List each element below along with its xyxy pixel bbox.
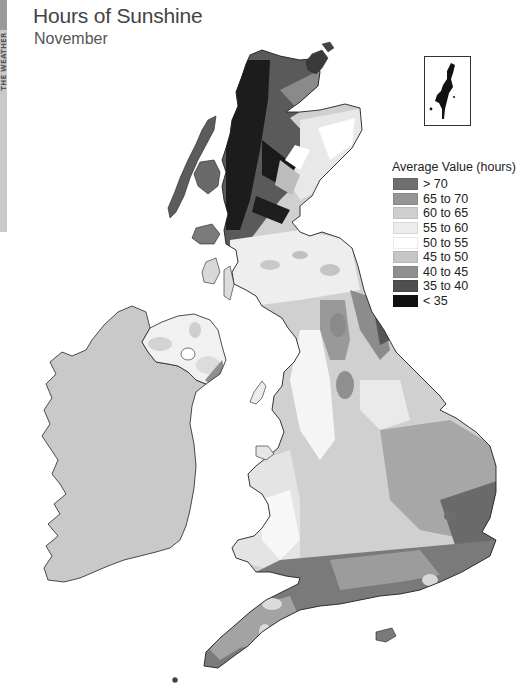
legend-title: Average Value (hours) [392,160,516,174]
shetland-islands [435,63,455,119]
legend-swatch [393,266,418,278]
legend-item: 60 to 65 [393,206,516,221]
legend-item: 50 to 55 [393,235,516,250]
orkney-small-islands [322,42,334,52]
legend-label: 45 to 50 [423,250,468,264]
isle-of-wight [376,628,396,642]
orkney-islands [306,50,328,74]
legend-label: 35 to 40 [423,279,468,293]
legend-label: < 35 [423,294,448,308]
legend-item: 40 to 45 [393,265,516,280]
isle-of-skye [194,160,220,194]
legend-item: < 35 [393,294,516,309]
legend-swatch [393,251,418,263]
legend-label: 55 to 60 [423,221,468,235]
great-britain-shading [200,40,510,680]
legend-label: 65 to 70 [423,192,468,206]
legend-label: 40 to 45 [423,265,468,279]
legend-items: > 7065 to 7060 to 6555 to 6050 to 5545 t… [393,177,516,308]
legend-item: > 70 [393,177,516,192]
islay-jura [202,258,220,284]
shetland-map [425,57,470,125]
legend-swatch [393,222,418,234]
legend-item: 45 to 50 [393,250,516,265]
legend-swatch [393,207,418,219]
legend-swatch [393,178,418,190]
legend-label: 60 to 65 [423,206,468,220]
legend-label: > 70 [423,177,448,191]
legend-swatch [393,295,418,307]
shetland-inset [424,56,471,126]
isle-of-mull [192,224,220,244]
legend-item: 55 to 60 [393,221,516,236]
isles-of-scilly [173,678,178,683]
legend-item: 65 to 70 [393,192,516,207]
legend-label: 50 to 55 [423,236,468,250]
legend-swatch [393,237,418,249]
legend-item: 35 to 40 [393,279,516,294]
legend-swatch [393,193,418,205]
legend-swatch [393,280,418,292]
map-legend: Average Value (hours) > 7065 to 7060 to … [393,160,516,308]
isle-of-man [250,381,266,404]
